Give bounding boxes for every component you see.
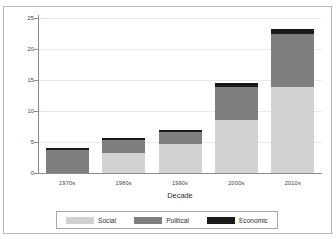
bar-segment-political-2010s <box>271 34 314 87</box>
y-tick-label-20: 20 <box>6 46 34 52</box>
legend-item-political: Political <box>134 217 189 224</box>
chart-figure: 0510152025 1970s1980s1990s2000s2010s Dec… <box>0 0 336 239</box>
x-tick-label-1990s: 1990s <box>152 180 208 186</box>
bar-segment-economic-1990s <box>159 130 202 132</box>
legend-item-social: Social <box>66 217 116 224</box>
legend-label-social: Social <box>98 217 116 224</box>
bar-segment-economic-2010s <box>271 29 314 35</box>
bar-2000s <box>215 0 258 173</box>
bar-segment-social-2010s <box>271 87 314 173</box>
bar-segment-social-2000s <box>215 120 258 173</box>
x-tick-label-1980s: 1980s <box>96 180 152 186</box>
y-tick-label-5: 5 <box>6 139 34 145</box>
legend-label-political: Political <box>166 217 189 224</box>
bar-segment-social-1990s <box>159 144 202 173</box>
bar-segment-economic-1970s <box>46 148 89 150</box>
bar-1980s <box>102 0 145 173</box>
bar-segment-economic-2000s <box>215 83 258 87</box>
bar-segment-political-2000s <box>215 87 258 120</box>
x-axis-line <box>38 173 322 174</box>
y-tick-label-10: 10 <box>6 108 34 114</box>
bar-segment-social-1980s <box>102 153 145 173</box>
x-tick-label-1970s: 1970s <box>39 180 95 186</box>
x-axis-title: Decade <box>38 191 322 200</box>
y-tick-label-15: 15 <box>6 77 34 83</box>
chart-legend: SocialPoliticalEconomic <box>56 211 278 229</box>
bar-segment-political-1970s <box>46 150 89 173</box>
legend-label-economic: Economic <box>239 217 268 224</box>
x-tick-label-2010s: 2010s <box>265 180 321 186</box>
y-tick-label-25: 25 <box>6 15 34 21</box>
bar-1970s <box>46 0 89 173</box>
bar-segment-economic-1980s <box>102 138 145 140</box>
y-tick-label-0: 0 <box>6 170 34 176</box>
legend-swatch-economic <box>207 217 235 224</box>
legend-swatch-political <box>134 217 162 224</box>
bar-segment-political-1980s <box>102 140 145 153</box>
bar-1990s <box>159 0 202 173</box>
bar-segment-political-1990s <box>159 132 202 144</box>
legend-swatch-social <box>66 217 94 224</box>
legend-item-economic: Economic <box>207 217 268 224</box>
bar-2010s <box>271 0 314 173</box>
y-axis-line <box>38 15 39 174</box>
x-tick-label-2000s: 2000s <box>208 180 264 186</box>
